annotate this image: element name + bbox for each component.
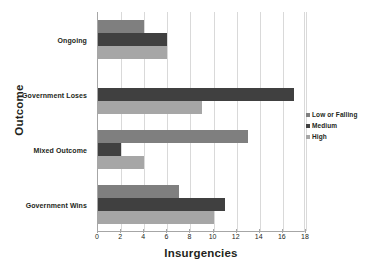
x-axis-title: Insurgencies [97, 247, 305, 259]
x-tick-label: 0 [87, 233, 107, 240]
legend-label: Low or Falling [312, 111, 357, 118]
legend-label: Medium [312, 122, 337, 129]
x-tick-label: 8 [179, 233, 199, 240]
x-axis-tick-labels: 024681012141618 [97, 233, 305, 247]
bar-government-wins-medium [98, 198, 225, 211]
x-tick-label: 4 [133, 233, 153, 240]
insurgencies-outcome-bar-chart: Outcome OngoingGovernment LosesMixed Out… [0, 0, 375, 271]
bar-mixed-outcome-medium [98, 143, 121, 156]
x-tick-label: 18 [295, 233, 315, 240]
x-tick-label: 14 [249, 233, 269, 240]
legend-label: High [312, 133, 327, 140]
bar-ongoing-low-or-falling [98, 20, 144, 33]
bar-government-loses-high [98, 101, 202, 114]
plot-area [97, 12, 305, 232]
bar-ongoing-high [98, 46, 167, 59]
x-tick-label: 10 [203, 233, 223, 240]
y-tick-label: Ongoing [0, 36, 87, 43]
x-tick-label: 12 [226, 233, 246, 240]
y-tick-label: Government Loses [0, 91, 87, 98]
bar-mixed-outcome-high [98, 156, 144, 169]
legend-swatch-icon [306, 135, 310, 139]
legend-item-high[interactable]: High [306, 131, 374, 142]
bar-mixed-outcome-low-or-falling [98, 130, 248, 143]
bar-government-wins-low-or-falling [98, 185, 179, 198]
x-tick-label: 6 [156, 233, 176, 240]
bar-ongoing-medium [98, 33, 167, 46]
legend-item-low-or-falling[interactable]: Low or Falling [306, 109, 374, 120]
y-axis-tick-labels: OngoingGovernment LosesMixed OutcomeGove… [0, 12, 92, 232]
bar-government-loses-medium [98, 88, 294, 101]
legend-swatch-icon [306, 124, 310, 128]
y-tick-label: Mixed Outcome [0, 146, 87, 153]
chart-legend: Low or FallingMediumHigh [306, 109, 374, 142]
bars-layer [98, 12, 304, 231]
x-tick-label: 2 [110, 233, 130, 240]
legend-item-medium[interactable]: Medium [306, 120, 374, 131]
y-tick-label: Government Wins [0, 201, 87, 208]
legend-swatch-icon [306, 113, 310, 117]
bar-government-wins-high [98, 211, 214, 224]
x-tick-label: 16 [272, 233, 292, 240]
